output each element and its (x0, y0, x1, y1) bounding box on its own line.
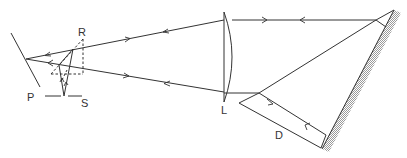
label-l: L (221, 104, 227, 116)
d-lower-edge (239, 103, 321, 148)
mirror-p (11, 33, 40, 87)
mirror-hatched (322, 10, 401, 152)
dashed-to-r (51, 39, 83, 74)
label-s: S (81, 97, 88, 109)
ray-lower (26, 59, 224, 92)
optical-diagram: P R S L D (0, 0, 407, 158)
prism-right-edge (64, 49, 73, 96)
label-r: R (78, 26, 86, 38)
lens-l (224, 12, 232, 102)
label-d: D (275, 129, 283, 141)
normal-top (376, 20, 386, 27)
label-p: P (27, 91, 34, 103)
d-left-edge (239, 93, 259, 103)
ray-upper (26, 20, 224, 59)
d-upper-edge (259, 93, 326, 135)
